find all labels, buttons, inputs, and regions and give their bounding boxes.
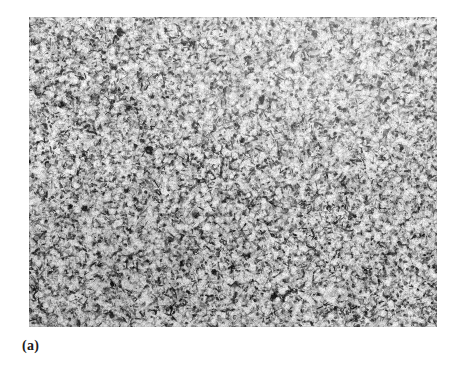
micrograph-plate bbox=[29, 17, 437, 327]
panel-label: (a) bbox=[22, 338, 39, 354]
figure-page: (a) bbox=[0, 0, 465, 367]
metallographic-micrograph bbox=[29, 17, 437, 327]
